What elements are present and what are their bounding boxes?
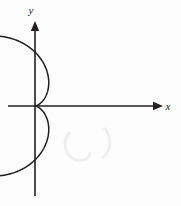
x-axis-label: x [165, 100, 171, 112]
cardioid-figure: x y [0, 0, 181, 206]
figure-canvas: x y [0, 0, 181, 206]
axes-group [8, 21, 163, 196]
background-watermark [65, 128, 110, 161]
y-axis-arrowhead [31, 21, 39, 31]
y-axis-label: y [28, 4, 34, 16]
x-axis-arrowhead [153, 102, 163, 110]
